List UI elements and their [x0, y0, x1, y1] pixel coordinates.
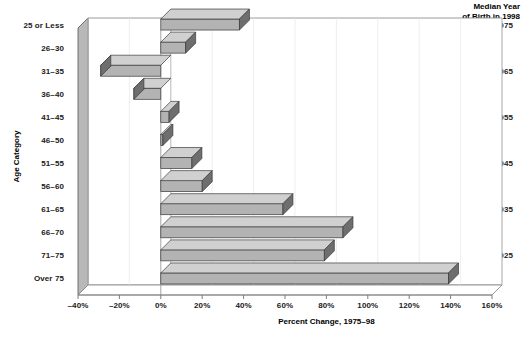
bar-top-face [161, 9, 250, 19]
bar-front-face [161, 273, 449, 284]
bar-front-face [161, 204, 283, 215]
bar [161, 194, 293, 215]
bar-front-face [161, 111, 169, 122]
bar [101, 55, 171, 76]
bar-front-face [161, 19, 240, 30]
bar-front-face [161, 42, 186, 53]
bar [161, 171, 212, 192]
bar [161, 263, 459, 284]
bar-front-face [161, 181, 202, 192]
bar-top-face [161, 194, 293, 204]
bar-top-face [161, 240, 335, 250]
bar [161, 240, 335, 261]
bar [161, 217, 353, 238]
bar-front-face [161, 250, 325, 261]
bar [161, 9, 250, 30]
bar-front-face [161, 158, 192, 169]
plot-left-wall [78, 18, 88, 295]
plot-floor [78, 285, 502, 295]
bar-chart: Median Year of Birth in 1998 Age Categor… [0, 0, 526, 337]
bar-front-face [161, 227, 343, 238]
bar-top-face [101, 55, 171, 65]
bar-top-face [161, 263, 459, 273]
bar-top-face [161, 217, 353, 227]
plot-area [0, 0, 526, 337]
